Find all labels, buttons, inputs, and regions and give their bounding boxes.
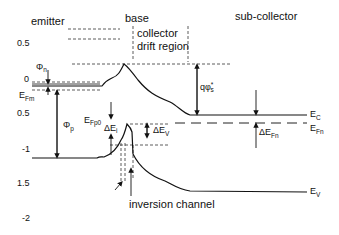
delta-efn-label: ΔEFn <box>259 127 279 139</box>
collector-label: collector <box>137 27 178 39</box>
y-tick-4: 1.5 <box>17 178 30 188</box>
delta-ei-label: ΔEi <box>104 123 117 134</box>
y-tick-5: -2 <box>22 213 30 223</box>
guide-dashes <box>32 26 232 183</box>
inversion-channel-label: inversion channel <box>129 198 215 210</box>
subcollector-label: sub-collector <box>235 10 298 22</box>
emitter-label: emitter <box>31 15 65 27</box>
efp0-label: EFp0 <box>84 115 102 127</box>
y-tick-3: -1 <box>22 144 30 154</box>
base-label: base <box>125 12 149 24</box>
delta-ev-label: ΔEV <box>153 125 170 137</box>
ev-label: EV <box>310 186 321 198</box>
ec-label: EC <box>310 109 321 121</box>
drift-region-label: drift region <box>137 40 189 52</box>
phi-p-label: Φp <box>63 120 74 133</box>
y-tick-0: 0.5 <box>17 38 30 48</box>
y-tick-1: 0 <box>24 74 29 84</box>
efn-label: EFn <box>310 123 324 135</box>
conduction-band <box>32 64 307 115</box>
phi-n-label: Φn <box>36 62 47 73</box>
q-phi-s-label: qφ*s <box>200 81 214 93</box>
band-diagram: emitter base collector drift region sub-… <box>0 0 339 235</box>
y-tick-2: 0.5 <box>17 108 30 118</box>
efm-label: EFm <box>19 90 34 102</box>
